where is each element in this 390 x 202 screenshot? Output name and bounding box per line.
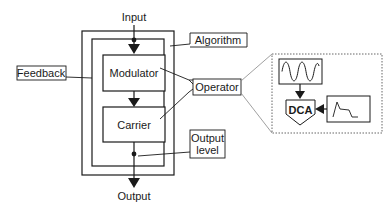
output-level-label-line2: level — [196, 144, 219, 156]
zoom-line-top — [241, 54, 272, 81]
modulator-label: Modulator — [110, 67, 159, 79]
input-label: Input — [122, 11, 146, 23]
algorithm-label: Algorithm — [195, 34, 241, 46]
env-dca-arrow-icon — [315, 104, 324, 114]
mod-carrier-arrow-icon — [128, 98, 140, 107]
envelope-box — [327, 96, 370, 122]
algorithm-outer-box — [82, 31, 174, 175]
operator-label: Operator — [195, 81, 239, 93]
algorithm-leader — [170, 44, 190, 46]
input-junction-dot — [132, 38, 137, 43]
input-arrow-icon — [128, 44, 140, 54]
output-label: Output — [117, 190, 150, 202]
dca-label: DCA — [289, 104, 313, 116]
feedback-label: Feedback — [17, 67, 66, 79]
output-arrow-icon — [128, 178, 140, 188]
zoom-line-bottom — [241, 93, 272, 133]
feedback-leader — [66, 77, 92, 78]
output-level-label-line1: Output — [191, 132, 224, 144]
output-junction-dot — [132, 152, 137, 157]
fm-operator-diagram: Input Modulator Carrier Output Algorithm… — [0, 0, 390, 202]
carrier-label: Carrier — [117, 119, 151, 131]
osc-dca-arrow-icon — [295, 91, 305, 99]
